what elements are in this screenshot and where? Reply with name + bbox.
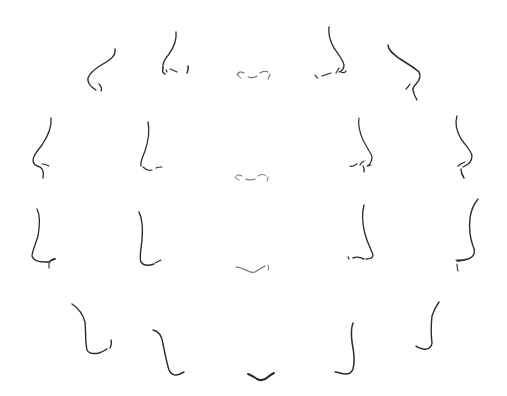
nose-sketch-sheet	[0, 0, 507, 396]
drawing-canvas	[0, 0, 507, 396]
nose-sketch-o	[456, 199, 478, 271]
nose-sketch-r	[248, 373, 274, 380]
nose-sketch-j	[456, 116, 472, 178]
nose-sketch-s	[335, 323, 354, 374]
nose-sketch-b	[163, 32, 189, 74]
nose-sketch-m	[236, 265, 269, 272]
nose-sketch-k	[32, 209, 55, 268]
nose-sketch-n	[348, 205, 373, 259]
nose-sketch-i	[350, 118, 372, 172]
nose-sketch-l	[139, 212, 161, 265]
nose-sketch-d	[315, 27, 346, 78]
nose-sketch-t	[416, 302, 439, 349]
nose-sketch-q	[153, 330, 184, 375]
nose-sketch-f	[33, 118, 51, 178]
nose-sketch-g	[141, 122, 162, 170]
nose-sketch-h	[235, 175, 268, 182]
nose-sketch-c	[237, 71, 270, 79]
nose-sketch-a	[88, 49, 115, 91]
nose-sketch-p	[72, 304, 111, 354]
nose-sketch-e	[388, 45, 420, 100]
